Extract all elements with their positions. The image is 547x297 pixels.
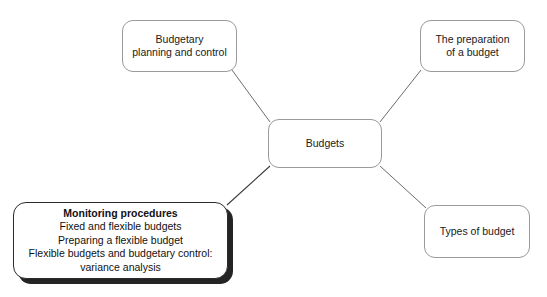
node-label: Budgets	[300, 137, 351, 151]
node-types-of-budget[interactable]: Types of budget	[424, 205, 530, 258]
node-monitoring-procedures[interactable]: Monitoring procedures Fixed and flexible…	[13, 202, 228, 279]
connector-center-to-budgetary-planning	[232, 70, 270, 122]
node-label: Budgetary planning and control	[126, 33, 233, 60]
monitoring-procedures-line-1: Fixed and flexible budgets	[22, 220, 219, 234]
node-the-preparation-of-a-budget[interactable]: The preparation of a budget	[420, 20, 525, 72]
monitoring-procedures-line-2: Preparing a flexible budget	[22, 234, 219, 248]
monitoring-procedures-content: Monitoring procedures Fixed and flexible…	[14, 207, 227, 275]
diagram-canvas: Budgetary planning and control The prepa…	[0, 0, 547, 297]
monitoring-procedures-line-3: Flexible budgets and budgetary control: …	[22, 247, 219, 274]
connector-center-to-monitoring-procedures	[227, 166, 270, 205]
node-label: The preparation of a budget	[429, 33, 515, 60]
node-budgetary-planning-and-control[interactable]: Budgetary planning and control	[122, 20, 237, 72]
node-label: Types of budget	[434, 225, 521, 239]
connector-center-to-preparation	[380, 70, 421, 122]
monitoring-procedures-title: Monitoring procedures	[22, 207, 219, 221]
node-budgets-center[interactable]: Budgets	[268, 119, 382, 168]
connector-center-to-types-of-budget	[380, 166, 426, 208]
